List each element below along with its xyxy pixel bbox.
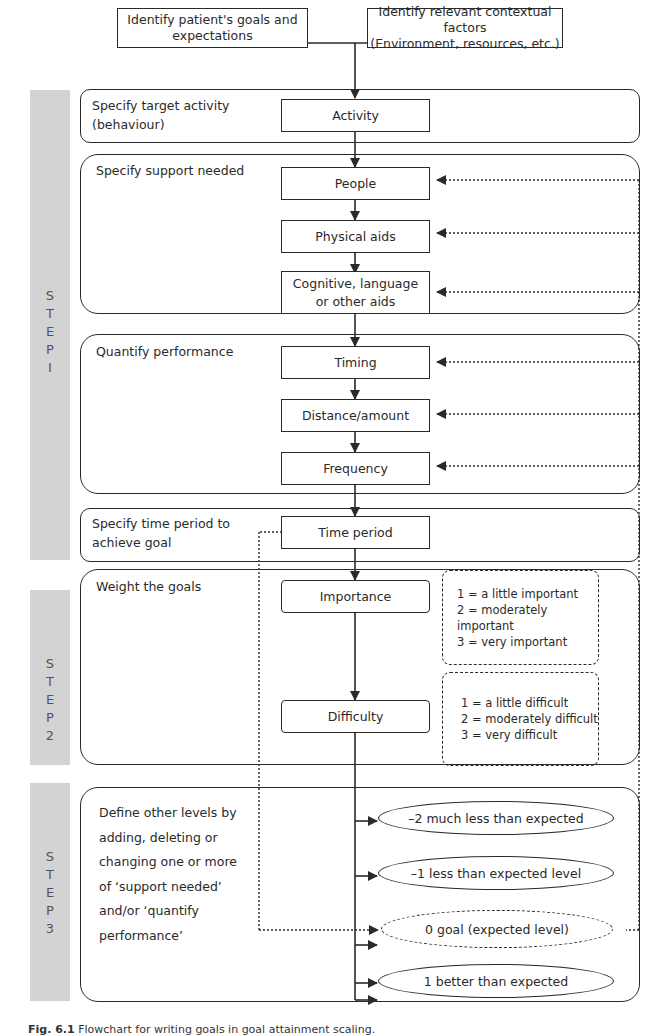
patient-goals-box: Identify patient's goals and expectation… [117,8,308,48]
figure-caption-text: Flowchart for writing goals in goal atta… [78,1023,375,1035]
step1-letter: T [30,305,70,323]
label-line: and/or ‘quantify [99,899,237,924]
level-minus-2: –2 much less than expected [378,801,614,835]
label-target-activity: Specify target activity (behaviour) [92,96,230,134]
scale-item: 1 = a little difficult [461,695,598,711]
step1-letter: I [30,359,70,377]
step3-label: S T E P 3 [30,848,70,938]
label-line: adding, deleting or [99,826,237,851]
step2-letter: 2 [30,727,70,745]
scale-item: 1 = a little important [457,586,598,602]
contextual-factors-line: (Environment, resources, etc.) [370,36,559,52]
people-box: People [281,167,430,200]
difficulty-box: Difficulty [281,700,430,733]
step1-label: S T E P I [30,287,70,377]
level-0-goal: 0 goal (expected level) [381,910,613,948]
scale-item: 2 = moderately important [457,602,598,634]
step2-letter: T [30,673,70,691]
label-line: achieve goal [92,533,230,552]
step3-letter: S [30,848,70,866]
cognitive-aids-box: Cognitive, language or other aids [281,271,430,314]
label-support-needed: Specify support needed [96,161,244,180]
step1-letter: E [30,323,70,341]
physical-aids-box: Physical aids [281,220,430,253]
step2-letter: E [30,691,70,709]
step1-letter: P [30,341,70,359]
label-line: Define other levels by [99,801,237,826]
figure-caption: Fig. 6.1 Flowchart for writing goals in … [28,1023,375,1035]
label-line: Specify target activity [92,96,230,115]
level-minus-1: –1 less than expected level [378,856,614,890]
step2-label: S T E P 2 [30,655,70,745]
label-line: of ‘support needed’ [99,875,237,900]
step1-letter: S [30,287,70,305]
label-weight-goals: Weight the goals [96,577,201,596]
label-define-levels: Define other levels by adding, deleting … [99,801,237,948]
figure-number: Fig. 6.1 [28,1023,75,1035]
difficulty-scale: 1 = a little difficult 2 = moderately di… [442,672,599,766]
step2-letter: P [30,709,70,727]
step3-letter: 3 [30,920,70,938]
step3-letter: P [30,902,70,920]
label-line: performance’ [99,924,237,949]
step3-letter: T [30,866,70,884]
label-line: (behaviour) [92,115,230,134]
activity-box: Activity [281,99,430,132]
scale-item: 3 = very difficult [461,727,598,743]
timing-box: Timing [281,346,430,379]
cognitive-aids-line: Cognitive, language [293,275,418,293]
contextual-factors-box: Identify relevant contextual factors (En… [367,8,563,48]
distance-amount-box: Distance/amount [281,399,430,432]
scale-item: 2 = moderately difficult [461,711,598,727]
level-plus-1: 1 better than expected [378,964,614,998]
step3-letter: E [30,884,70,902]
cognitive-aids-line: or other aids [316,293,396,311]
time-period-box: Time period [281,516,430,549]
importance-scale: 1 = a little important 2 = moderately im… [442,570,599,665]
label-time-period: Specify time period to achieve goal [92,514,230,552]
step2-letter: S [30,655,70,673]
frequency-box: Frequency [281,452,430,485]
scale-item: 3 = very important [457,634,598,650]
label-line: changing one or more [99,850,237,875]
label-quantify-performance: Quantify performance [96,342,233,361]
label-line: Specify time period to [92,514,230,533]
importance-box: Importance [281,580,430,613]
contextual-factors-line: Identify relevant contextual factors [368,4,562,36]
